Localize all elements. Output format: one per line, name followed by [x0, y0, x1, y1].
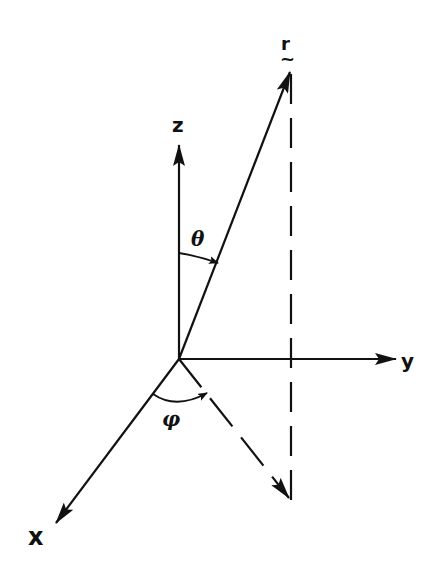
theta-label: θ [191, 227, 205, 251]
phi-label: φ [162, 407, 180, 431]
y-axis-label: y [401, 349, 414, 373]
z-axis-label: z [172, 113, 184, 137]
spherical-coordinates-diagram: z y x r ~ θ φ [0, 0, 433, 567]
r-vector-tilde: ~ [280, 48, 295, 69]
x-axis [56, 359, 179, 523]
r-vector [179, 72, 290, 359]
theta-arc [179, 253, 218, 263]
xy-plane-projection-line [179, 359, 289, 498]
x-axis-label: x [28, 523, 44, 551]
phi-arc [153, 393, 207, 402]
